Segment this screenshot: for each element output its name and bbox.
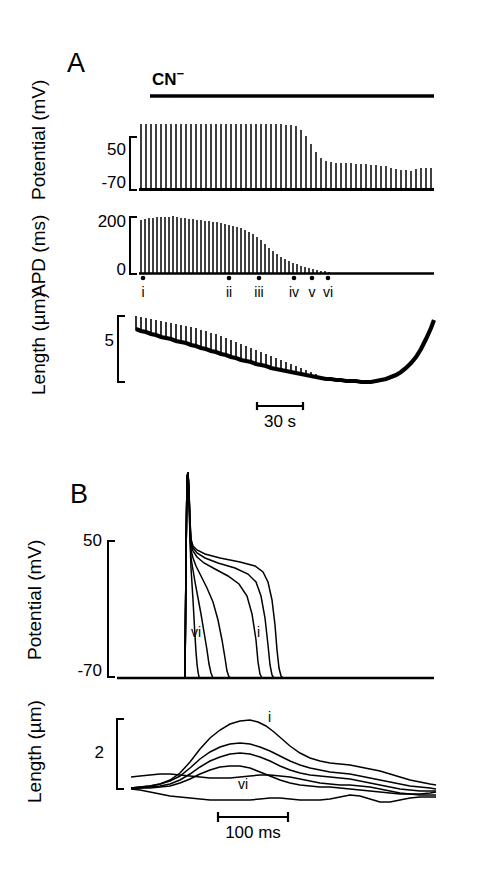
tick-potential-b-top: 50 [64,531,102,551]
event-label-iii: iii [247,284,271,300]
event-dot-ii [227,276,232,281]
ap-trace-ii [185,472,434,678]
figure-root: A CN− Potential (mV) 50 -70 APD (ms) 200… [0,0,494,884]
potential-axis-bracket-b [108,541,115,677]
event-label-i: i [131,284,155,300]
ap-trace-v [185,472,434,678]
length-label-vi: vi [238,776,248,792]
event-dot-vi [326,276,331,281]
panel-letter-a: A [67,48,85,79]
event-label-vi: vi [316,284,340,300]
cn-label-charge: − [177,66,185,81]
length-transient-traces-b [131,720,436,802]
event-dot-iv [292,276,297,281]
axis-label-potential-a: Potential (mV) [28,80,50,200]
ap-trace-iii [185,472,434,678]
ap-trace-vi [185,472,434,678]
scale-label-30s: 30 s [240,412,320,432]
axis-label-apd: APD (ms) [28,215,50,297]
scale-bar-100ms [218,812,288,822]
tick-apd-top: 200 [78,212,126,232]
event-dot-v [310,276,315,281]
tick-length-b: 2 [74,743,104,763]
length-label-i: i [268,709,271,725]
apd-axis-bracket [130,217,137,274]
axis-label-length-a: Length (µm) [28,292,50,395]
cn-label-text: CN [152,70,177,89]
ap-label-vi: vi [191,624,201,640]
length-trace-iii [131,753,436,791]
ap-label-i: i [257,624,260,640]
scale-label-100ms: 100 ms [213,823,293,843]
panel-letter-b: B [70,479,88,510]
action-potential-traces-b [117,472,434,678]
tick-apd-bottom: 0 [96,260,126,280]
ap-trace-iv [185,472,434,678]
cn-label: CN− [152,66,184,90]
event-dot-i [141,276,146,281]
tick-potential-a-bottom: -70 [84,173,126,193]
potential-axis-bracket-a [130,137,137,190]
tick-length-a: 5 [84,331,114,351]
apd-trace [139,216,434,274]
membrane-potential-trace-a [139,124,434,190]
tick-potential-b-bottom: -70 [60,661,102,681]
axis-label-potential-b: Potential (mV) [24,540,46,660]
event-dot-iii [257,276,262,281]
event-marker-dots [141,276,331,281]
tick-potential-a-top: 50 [88,140,126,160]
length-axis-bracket-b [117,719,124,789]
length-axis-bracket-a [118,316,125,382]
ap-trace-i [185,472,434,678]
scale-bar-30s [257,402,303,410]
length-trace-a [136,316,434,382]
axis-label-length-b: Length (µm) [24,700,46,803]
event-label-ii: ii [217,284,241,300]
